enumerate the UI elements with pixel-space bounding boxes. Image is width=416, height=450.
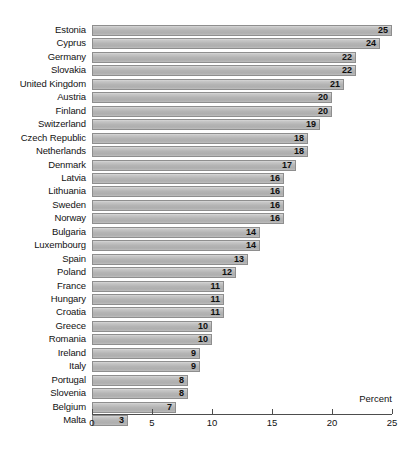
category-label: Estonia (0, 24, 86, 36)
bar-value-label: 18 (92, 145, 304, 157)
category-label: Poland (0, 266, 86, 278)
bar-row: Austria20 (0, 92, 416, 103)
bar-value-label: 3 (92, 414, 124, 426)
bar-row: Germany22 (0, 52, 416, 63)
bar-value-label: 16 (92, 212, 280, 224)
bar-row: Greece10 (0, 321, 416, 332)
category-label: Sweden (0, 199, 86, 211)
bar-value-label: 8 (92, 387, 184, 399)
category-label: Portugal (0, 374, 86, 386)
category-label: Austria (0, 91, 86, 103)
category-label: Belgium (0, 401, 86, 413)
bar-value-label: 9 (92, 347, 196, 359)
category-label: Romania (0, 333, 86, 345)
bar-row: Slovenia8 (0, 388, 416, 399)
bar-row: Belgium7 (0, 402, 416, 413)
bar-value-label: 8 (92, 374, 184, 386)
bar-row: Poland12 (0, 267, 416, 278)
bar-value-label: 13 (92, 253, 244, 265)
category-label: Spain (0, 253, 86, 265)
bar-row: Croatia11 (0, 307, 416, 318)
bar-row: Romania10 (0, 334, 416, 345)
bar-value-label: 14 (92, 226, 256, 238)
bar-row: Czech Republic18 (0, 133, 416, 144)
category-label: Italy (0, 360, 86, 372)
bar-row: Italy9 (0, 361, 416, 372)
bar-row: Netherlands18 (0, 146, 416, 157)
bar-value-label: 21 (92, 78, 340, 90)
category-label: Czech Republic (0, 132, 86, 144)
bar-row: Latvia16 (0, 173, 416, 184)
bar-row: Sweden16 (0, 200, 416, 211)
bar-value-label: 10 (92, 333, 208, 345)
bar-row: Malta3 (0, 415, 416, 426)
category-label: France (0, 280, 86, 292)
category-label: Denmark (0, 159, 86, 171)
bar-value-label: 18 (92, 132, 304, 144)
category-label: Cyprus (0, 37, 86, 49)
bar-value-label: 14 (92, 239, 256, 251)
bar-value-label: 20 (92, 105, 328, 117)
category-label: Croatia (0, 306, 86, 318)
bar-row: Bulgaria14 (0, 227, 416, 238)
bar-value-label: 11 (92, 306, 220, 318)
category-label: Slovenia (0, 387, 86, 399)
bar-row: Cyprus24 (0, 38, 416, 49)
bar-value-label: 17 (92, 159, 292, 171)
category-label: Ireland (0, 347, 86, 359)
bar-value-label: 11 (92, 280, 220, 292)
bar-chart: Estonia25Cyprus24Germany22Slovakia22Unit… (0, 0, 416, 450)
bar-row: Estonia25 (0, 25, 416, 36)
category-label: Netherlands (0, 145, 86, 157)
bar-row: Finland20 (0, 106, 416, 117)
bar-row: Luxembourg14 (0, 240, 416, 251)
bar-value-label: 22 (92, 64, 352, 76)
category-label: Bulgaria (0, 226, 86, 238)
bar-row: Lithuania16 (0, 186, 416, 197)
category-label: Germany (0, 51, 86, 63)
category-label: Slovakia (0, 64, 86, 76)
bar-row: Spain13 (0, 254, 416, 265)
bar-row: Ireland9 (0, 348, 416, 359)
bar-value-label: 12 (92, 266, 232, 278)
category-label: Lithuania (0, 185, 86, 197)
category-label: Latvia (0, 172, 86, 184)
bar-value-label: 9 (92, 360, 196, 372)
bar-value-label: 19 (92, 118, 316, 130)
category-label: Switzerland (0, 118, 86, 130)
category-label: United Kingdom (0, 78, 86, 90)
category-label: Hungary (0, 293, 86, 305)
bar-value-label: 7 (92, 401, 172, 413)
category-label: Luxembourg (0, 239, 86, 251)
bar-row: Slovakia22 (0, 65, 416, 76)
bar-value-label: 25 (92, 24, 388, 36)
bar-row: Denmark17 (0, 160, 416, 171)
bar-value-label: 20 (92, 91, 328, 103)
bar-value-label: 24 (92, 37, 376, 49)
category-label: Malta (0, 414, 86, 426)
bar-value-label: 10 (92, 320, 208, 332)
bar-value-label: 11 (92, 293, 220, 305)
category-label: Greece (0, 320, 86, 332)
bar-row: Hungary11 (0, 294, 416, 305)
bar-value-label: 16 (92, 172, 280, 184)
bar-value-label: 16 (92, 199, 280, 211)
category-label: Finland (0, 105, 86, 117)
bar-row: France11 (0, 281, 416, 292)
bar-row: Portugal8 (0, 375, 416, 386)
category-label: Norway (0, 212, 86, 224)
bar-value-label: 22 (92, 51, 352, 63)
bar-row: United Kingdom21 (0, 79, 416, 90)
bar-row: Norway16 (0, 213, 416, 224)
bar-row: Switzerland19 (0, 119, 416, 130)
bar-value-label: 16 (92, 185, 280, 197)
